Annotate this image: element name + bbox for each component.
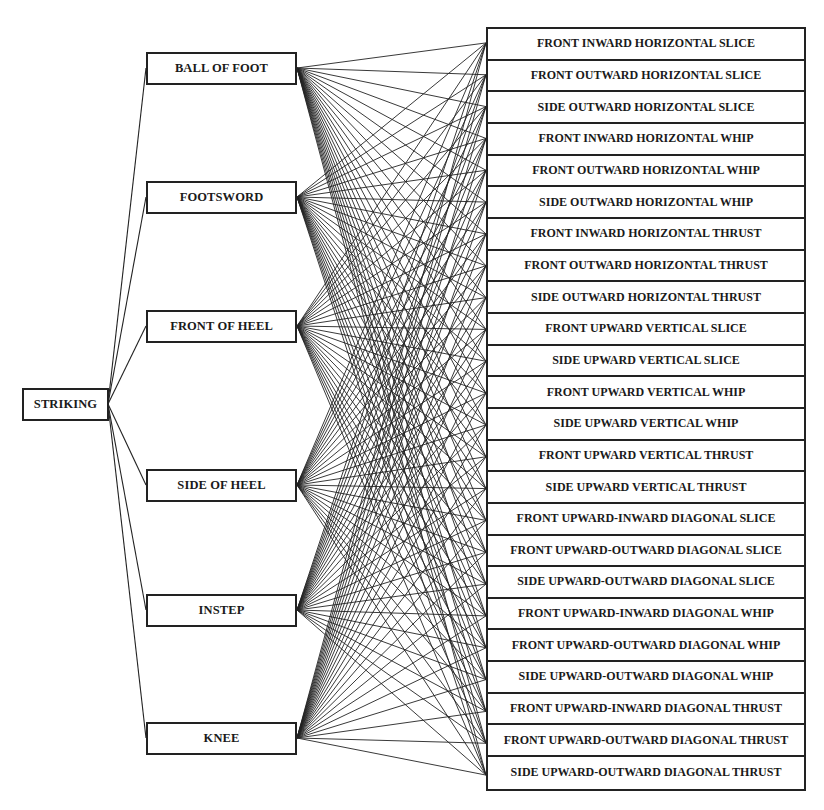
body-part-front-of-heel: FRONT OF HEEL (146, 310, 297, 343)
technique-label: FRONT UPWARD VERTICAL WHIP (547, 385, 746, 400)
body-part-label: KNEE (204, 731, 240, 746)
technique-item: SIDE UPWARD-OUTWARD DIAGONAL WHIP (488, 662, 804, 694)
technique-item: FRONT OUTWARD HORIZONTAL WHIP (488, 156, 804, 188)
technique-item: SIDE OUTWARD HORIZONTAL SLICE (488, 92, 804, 124)
technique-item: FRONT UPWARD VERTICAL SLICE (488, 314, 804, 346)
technique-item: FRONT INWARD HORIZONTAL THRUST (488, 219, 804, 251)
root-label: STRIKING (34, 397, 97, 412)
technique-label: SIDE UPWARD-OUTWARD DIAGONAL THRUST (511, 765, 782, 780)
technique-label: FRONT UPWARD-INWARD DIAGONAL SLICE (517, 511, 776, 526)
technique-label: SIDE OUTWARD HORIZONTAL SLICE (538, 100, 755, 115)
technique-item: SIDE UPWARD VERTICAL WHIP (488, 409, 804, 441)
technique-item: FRONT UPWARD-INWARD DIAGONAL WHIP (488, 599, 804, 631)
technique-item: FRONT UPWARD VERTICAL WHIP (488, 377, 804, 409)
body-part-ball-of-foot: BALL OF FOOT (146, 52, 297, 85)
technique-list: FRONT INWARD HORIZONTAL SLICE FRONT OUTW… (486, 27, 806, 791)
technique-item: FRONT INWARD HORIZONTAL SLICE (488, 29, 804, 61)
technique-item: FRONT UPWARD-INWARD DIAGONAL THRUST (488, 694, 804, 726)
technique-label: FRONT OUTWARD HORIZONTAL SLICE (531, 68, 762, 83)
technique-label: FRONT INWARD HORIZONTAL THRUST (530, 226, 761, 241)
technique-label: FRONT INWARD HORIZONTAL SLICE (537, 36, 755, 51)
technique-label: FRONT UPWARD-OUTWARD DIAGONAL WHIP (512, 638, 781, 653)
root-node-striking: STRIKING (22, 388, 109, 421)
technique-label: SIDE UPWARD-OUTWARD DIAGONAL SLICE (517, 574, 775, 589)
technique-item: FRONT UPWARD VERTICAL THRUST (488, 441, 804, 473)
technique-label: SIDE UPWARD-OUTWARD DIAGONAL WHIP (519, 669, 774, 684)
technique-item: FRONT UPWARD-INWARD DIAGONAL SLICE (488, 504, 804, 536)
technique-item: FRONT UPWARD-OUTWARD DIAGONAL SLICE (488, 536, 804, 568)
technique-item: SIDE OUTWARD HORIZONTAL WHIP (488, 187, 804, 219)
body-part-label: INSTEP (199, 603, 245, 618)
technique-item: FRONT INWARD HORIZONTAL WHIP (488, 124, 804, 156)
technique-item: FRONT UPWARD-OUTWARD DIAGONAL WHIP (488, 630, 804, 662)
technique-item: SIDE OUTWARD HORIZONTAL THRUST (488, 282, 804, 314)
body-part-footsword: FOOTSWORD (146, 181, 297, 214)
technique-label: SIDE UPWARD VERTICAL WHIP (554, 416, 739, 431)
technique-label: SIDE OUTWARD HORIZONTAL THRUST (531, 290, 761, 305)
body-part-side-of-heel: SIDE OF HEEL (146, 469, 297, 502)
body-part-label: FRONT OF HEEL (170, 319, 273, 334)
technique-label: FRONT OUTWARD HORIZONTAL WHIP (532, 163, 760, 178)
technique-item: FRONT UPWARD-OUTWARD DIAGONAL THRUST (488, 725, 804, 757)
technique-label: SIDE UPWARD VERTICAL THRUST (546, 480, 747, 495)
technique-label: FRONT UPWARD-OUTWARD DIAGONAL THRUST (504, 733, 789, 748)
technique-label: FRONT UPWARD-INWARD DIAGONAL WHIP (518, 606, 774, 621)
body-part-label: BALL OF FOOT (175, 61, 268, 76)
technique-label: SIDE OUTWARD HORIZONTAL WHIP (539, 195, 753, 210)
technique-label: FRONT UPWARD-OUTWARD DIAGONAL SLICE (510, 543, 781, 558)
body-part-instep: INSTEP (146, 594, 297, 627)
technique-item: FRONT OUTWARD HORIZONTAL THRUST (488, 251, 804, 283)
technique-label: FRONT UPWARD-INWARD DIAGONAL THRUST (510, 701, 782, 716)
technique-item: FRONT OUTWARD HORIZONTAL SLICE (488, 61, 804, 93)
technique-item: SIDE UPWARD VERTICAL SLICE (488, 346, 804, 378)
technique-item: SIDE UPWARD-OUTWARD DIAGONAL THRUST (488, 757, 804, 789)
body-part-knee: KNEE (146, 722, 297, 755)
striking-technique-tree: STRIKING BALL OF FOOT FOOTSWORD FRONT OF… (0, 0, 824, 810)
technique-label: SIDE UPWARD VERTICAL SLICE (552, 353, 740, 368)
technique-item: SIDE UPWARD VERTICAL THRUST (488, 472, 804, 504)
technique-item: SIDE UPWARD-OUTWARD DIAGONAL SLICE (488, 567, 804, 599)
technique-label: FRONT UPWARD VERTICAL SLICE (545, 321, 747, 336)
technique-label: FRONT UPWARD VERTICAL THRUST (539, 448, 754, 463)
body-part-label: SIDE OF HEEL (177, 478, 265, 493)
technique-label: FRONT INWARD HORIZONTAL WHIP (538, 131, 753, 146)
technique-label: FRONT OUTWARD HORIZONTAL THRUST (524, 258, 768, 273)
body-part-label: FOOTSWORD (180, 190, 264, 205)
